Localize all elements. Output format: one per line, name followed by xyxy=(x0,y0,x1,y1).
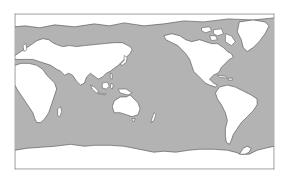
map-canvas[interactable] xyxy=(15,14,274,169)
island-philippines xyxy=(110,73,112,79)
island-hispaniola xyxy=(228,78,232,80)
world-map[interactable] xyxy=(14,13,275,170)
